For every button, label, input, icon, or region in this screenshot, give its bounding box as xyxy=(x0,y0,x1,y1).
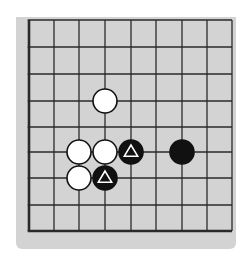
white-stone xyxy=(67,166,91,190)
go-board xyxy=(0,0,252,258)
black-stone-triangle-marked xyxy=(119,140,143,164)
board-grid xyxy=(28,20,232,231)
white-stone xyxy=(67,140,91,164)
black-stone xyxy=(170,140,194,164)
white-stone xyxy=(93,89,117,113)
white-stone xyxy=(93,140,117,164)
black-stone-triangle-marked xyxy=(93,166,117,190)
